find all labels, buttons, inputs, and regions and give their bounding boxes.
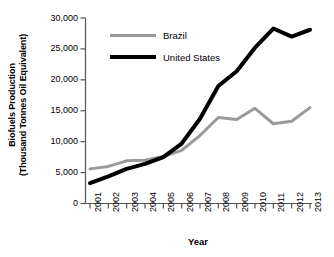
legend-item-brazil: Brazil <box>110 24 270 46</box>
x-tick-label: 2004 <box>149 191 158 211</box>
x-tick-label: 2005 <box>167 191 176 211</box>
biofuels-production-line-chart: Biofuels Production (Thousand Tonnes Oil… <box>0 0 334 257</box>
legend-swatch-brazil <box>110 34 156 37</box>
x-tick-label: 2003 <box>131 191 140 211</box>
x-tick-label: 2010 <box>259 191 268 211</box>
legend-label-united-states: United States <box>163 52 220 63</box>
x-axis-title: Year <box>85 236 311 247</box>
x-tick-label: 2009 <box>241 191 250 211</box>
x-tick-label: 2012 <box>296 191 305 211</box>
x-tick-label: 2008 <box>222 191 231 211</box>
x-tick-label: 2006 <box>186 191 195 211</box>
legend-label-brazil: Brazil <box>163 30 187 41</box>
x-tick-label: 2002 <box>112 191 121 211</box>
x-tick-label: 2013 <box>314 191 323 211</box>
legend-swatch-united-states <box>110 55 156 59</box>
legend-item-united-states: United States <box>110 46 270 68</box>
chart-legend: Brazil United States <box>110 24 270 68</box>
x-tick-label: 2001 <box>94 191 103 211</box>
x-tick-label: 2011 <box>277 192 286 211</box>
x-tick-label: 2007 <box>204 191 213 211</box>
